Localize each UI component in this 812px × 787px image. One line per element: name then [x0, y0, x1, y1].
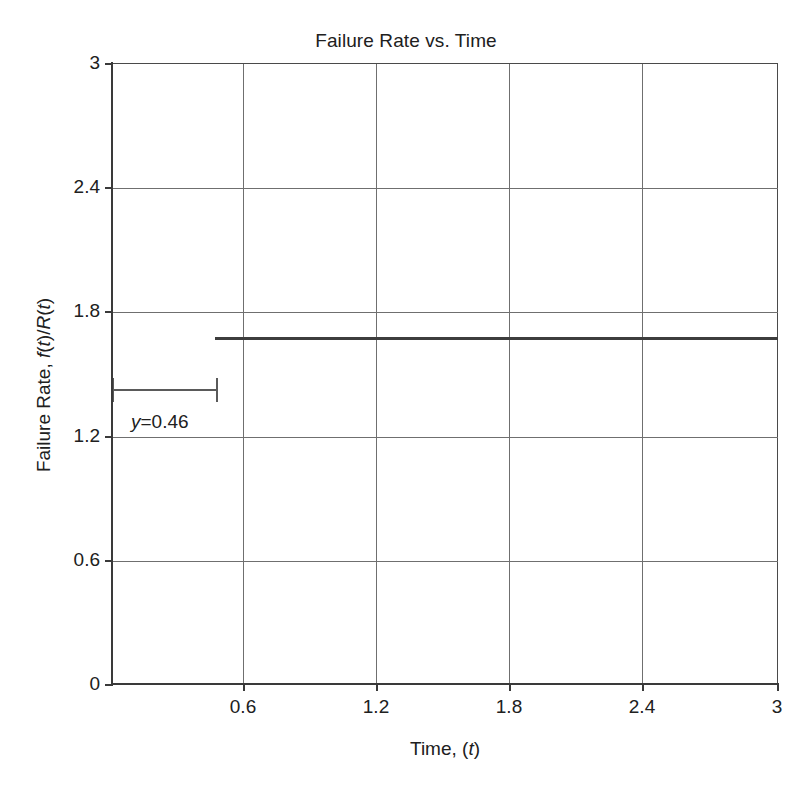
gridline-x-1-8: [509, 64, 510, 685]
x-axis-title-suffix: ): [474, 738, 480, 759]
y-tick-1-8: [105, 311, 112, 313]
gridline-x-1-2: [376, 64, 377, 685]
x-tick-label-2-4: 2.4: [602, 696, 682, 718]
x-tick-0-6: [243, 684, 245, 691]
x-axis-title-prefix: Time, (: [410, 738, 468, 759]
y-tick-3: [105, 63, 112, 65]
y-axis-title-paren-2: )/: [33, 330, 54, 342]
y-axis-title-paren-3: (: [33, 310, 54, 316]
x-tick-3: [777, 684, 779, 691]
y-tick-0: [105, 684, 112, 686]
gridline-x-2-4: [642, 64, 643, 685]
x-tick-1-8: [509, 684, 511, 691]
annotation-label-y-value: y=0.46: [131, 411, 189, 433]
gridline-x-0-6: [243, 64, 244, 685]
x-tick-label-1-8: 1.8: [469, 696, 549, 718]
caliper-bar: [112, 389, 218, 391]
y-axis-title-italic-t2: t: [33, 304, 54, 309]
y-tick-2-4: [105, 187, 112, 189]
gridline-y-1-2: [112, 437, 778, 438]
caliper-cap-right: [216, 378, 218, 402]
annotation-value-text: =0.46: [141, 411, 189, 432]
gridline-y-2-4: [112, 188, 778, 189]
y-axis-title-italic-t1: t: [33, 341, 54, 346]
y-axis-title-paren-1: (: [33, 346, 54, 352]
y-axis-title-italic-f: f: [33, 353, 54, 358]
x-tick-label-3: 3: [737, 696, 812, 718]
gridline-y-1-8: [112, 312, 778, 313]
y-tick-1-2: [105, 436, 112, 438]
y-tick-0-6: [105, 560, 112, 562]
y-axis-title-prefix: Failure Rate,: [33, 358, 54, 472]
x-tick-label-0-6: 0.6: [203, 696, 283, 718]
gridline-y-0-6: [112, 561, 778, 562]
y-axis-line: [111, 62, 113, 686]
x-tick-2-4: [642, 684, 644, 691]
x-axis-line: [111, 683, 779, 685]
y-axis-title-paren-4: ): [33, 298, 54, 304]
chart-figure: Failure Rate vs. Time 3 2.4: [0, 0, 812, 787]
plot-area: [112, 63, 778, 684]
x-tick-label-1-2: 1.2: [336, 696, 416, 718]
series-line-failure-rate: [215, 337, 778, 340]
caliper-marker: [112, 378, 218, 402]
x-tick-1-2: [376, 684, 378, 691]
chart-title: Failure Rate vs. Time: [0, 30, 812, 52]
annotation-italic-y: y: [131, 411, 141, 432]
y-axis-title-italic-r: R: [33, 316, 54, 330]
y-axis-title: Failure Rate, f(t)/R(t): [33, 65, 55, 705]
x-axis-title: Time, (t): [112, 738, 778, 760]
